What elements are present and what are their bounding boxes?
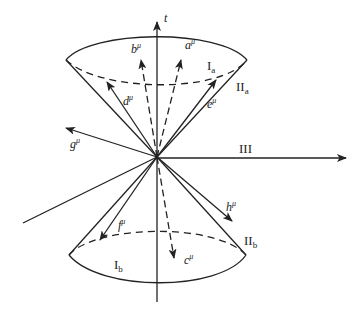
vector-f-label: fμ: [118, 218, 125, 231]
vector-g-label: gμ: [70, 137, 80, 150]
vector-e: [157, 80, 216, 157]
vector-a-label: aμ: [185, 38, 195, 51]
lower-cone-left-edge: [69, 157, 157, 255]
vector-f: [100, 157, 157, 240]
vector-d-label: dμ: [123, 94, 133, 107]
time-axis-label: t: [164, 12, 167, 24]
region-IIb-label: IIb: [244, 234, 257, 250]
vector-c-label: cμ: [184, 253, 193, 266]
vector-e-label: eμ: [207, 97, 216, 110]
region-IIa-label: IIa: [236, 80, 249, 96]
region-Ia-label: Ia: [207, 59, 215, 75]
vector-b-label: bμ: [131, 42, 141, 55]
vector-h: [157, 157, 232, 221]
upper-cone-right-edge: [157, 60, 247, 157]
region-Ib-label: Ib: [114, 258, 123, 274]
spatial-axis-label: III: [239, 142, 252, 155]
light-cone-diagram: [0, 0, 362, 316]
vector-h-label: hμ: [226, 200, 236, 213]
spacelike-line: [23, 157, 157, 223]
vector-a: [157, 60, 181, 157]
